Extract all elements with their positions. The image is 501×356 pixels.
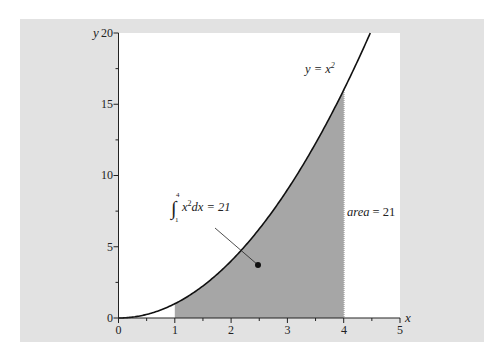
y-tick-label: 20 (101, 26, 113, 40)
svg-text:1: 1 (175, 216, 179, 224)
x-tick-label: 3 (285, 323, 291, 337)
svg-text:4: 4 (176, 191, 180, 199)
x-tick-label: 4 (341, 323, 347, 337)
x-tick-label: 1 (172, 323, 178, 337)
y-axis-label: y (91, 25, 99, 40)
pointer-dot (255, 262, 261, 268)
y-tick-label: 5 (107, 240, 113, 254)
area-label: area = 21 (347, 205, 395, 219)
x-tick-label: 0 (116, 323, 122, 337)
x-axis-label: x (404, 310, 411, 325)
chart-svg: 0 1 2 3 4 5 0 5 10 15 20 y x y = x2 ∫ 4 … (0, 0, 501, 356)
y-tick-label: 15 (101, 97, 113, 111)
y-tick-label: 10 (101, 168, 113, 182)
x-tick-label: 5 (397, 323, 403, 337)
curve-label: y = x2 (303, 61, 335, 76)
x-tick-label: 2 (228, 323, 234, 337)
y-tick-label: 0 (107, 311, 113, 325)
